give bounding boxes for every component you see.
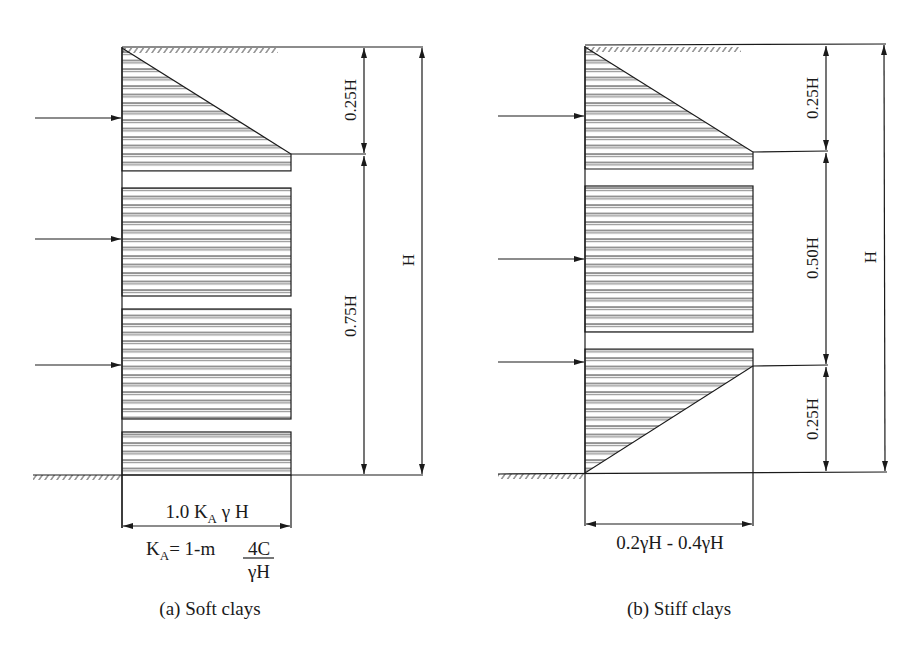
ground-surface-bottom	[498, 474, 585, 479]
caption-soft-clays: (a) Soft clays	[159, 598, 260, 620]
pressure-block-3	[122, 309, 291, 419]
pressure-block-1	[122, 48, 291, 171]
ka-formula-numerator: 4C	[248, 538, 270, 559]
pressure-block-1	[585, 47, 753, 169]
dim-label-top: 0.25H	[803, 77, 822, 119]
ground-surface-top	[122, 48, 278, 53]
diagram-soft-clays: 0.25H 0.75H H 1.0 KA γ H KA= 1-m 4C γH (…	[33, 47, 423, 620]
width-label: 0.2γH - 0.4γH	[616, 532, 724, 553]
earth-pressure-diagrams: 0.25H 0.75H H 1.0 KA γ H KA= 1-m 4C γH (…	[0, 0, 921, 656]
pressure-block-2	[585, 186, 753, 332]
dim-label-bottom: 0.25H	[803, 398, 822, 440]
ka-formula: KA= 1-m	[146, 538, 215, 563]
caption-stiff-clays: (b) Stiff clays	[627, 598, 731, 620]
diagram-stiff-clays: 0.25H 0.50H 0.25H H 0.2γH - 0.4γH (b) St…	[498, 44, 887, 620]
width-label: 1.0 KA γ H	[165, 501, 249, 526]
ka-formula-denominator: γH	[247, 561, 270, 582]
pressure-block-2	[122, 188, 291, 296]
dim-label-top: 0.25H	[341, 79, 360, 121]
dim-label-total: H	[861, 251, 880, 263]
dim-label-total: H	[399, 254, 418, 266]
pressure-block-3	[585, 349, 753, 473]
pressure-block-4	[122, 432, 291, 475]
dim-label-middle: 0.50H	[803, 237, 822, 279]
dim-total	[884, 45, 885, 471]
dim-label-middle: 0.75H	[341, 295, 360, 337]
ground-surface-top	[585, 47, 741, 52]
ground-surface-bottom	[33, 475, 122, 480]
